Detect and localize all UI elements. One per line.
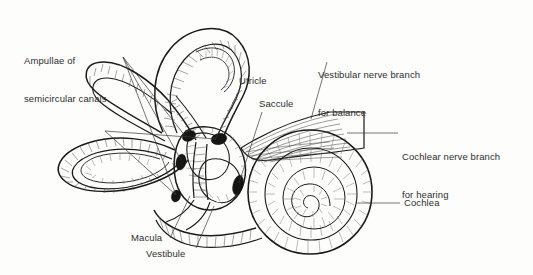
label-ampullae: Ampullae of semicircular canals — [24, 30, 107, 130]
leader-utricle — [215, 86, 241, 140]
cochlea-radiating-hatch — [248, 132, 372, 253]
superior-semicircular-canal — [155, 29, 250, 136]
cochlea-inner-hatch-1 — [266, 150, 356, 238]
macula-spot-5 — [231, 174, 246, 196]
label-vestibular-nerve-line2: for balance — [318, 107, 420, 120]
macula-spot-3 — [174, 153, 187, 171]
inner-ear-diagram: Ampullae of semicircular canals Utricle … — [0, 0, 533, 275]
label-utricle: Utricle — [239, 75, 267, 88]
leader-ampullae-3 — [123, 57, 176, 195]
leader-ampullae-2 — [123, 57, 181, 160]
macula-spot-1 — [181, 129, 198, 144]
cochlea-inner-hatch-2 — [284, 168, 344, 228]
vestibule-group — [170, 127, 247, 210]
label-ampullae-line1: Ampullae of — [24, 55, 107, 68]
label-macula: Macula — [131, 232, 162, 245]
label-vestibule: Vestibule — [146, 248, 185, 261]
leader-ampullae-5 — [105, 131, 176, 195]
label-cochlea: Cochlea — [404, 197, 440, 210]
label-saccule: Saccule — [259, 98, 294, 111]
label-ampullae-line2: semicircular canals — [24, 93, 107, 106]
label-cochlear-nerve-line1: Cochlear nerve branch — [402, 151, 500, 164]
lateral-semicircular-canal — [58, 137, 188, 193]
label-cochlear-nerve: Cochlear nerve branch for hearing — [402, 126, 500, 226]
label-vestibular-nerve-line1: Vestibular nerve branch — [318, 69, 420, 82]
